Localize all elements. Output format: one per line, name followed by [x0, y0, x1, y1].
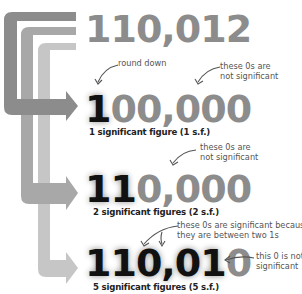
note-1sf-zeros-not-significant: these 0s are not significant: [220, 61, 278, 82]
note-5sf-zeros-significant: these 0s are significant because they ar…: [177, 220, 302, 241]
number-1sf: 100,000: [85, 90, 251, 128]
note-last-zero-not-significant: this 0 is not significant: [256, 251, 302, 272]
source-number: 110,012: [85, 10, 251, 48]
pointer-arrow-1sf-zeros-icon: [194, 64, 222, 86]
note-line: not significant: [220, 71, 278, 81]
note-line: significant: [256, 261, 302, 271]
note-line: these 0s are: [200, 142, 258, 152]
caption-2sf: 2 significant figures (2 s.f.): [93, 207, 219, 217]
number-2sf: 110,000: [85, 170, 251, 208]
arrow-to-5sf-icon: [38, 43, 78, 284]
significant-digits: 11: [85, 170, 136, 208]
note-line: these 0s are: [220, 61, 278, 71]
caption-1sf: 1 significant figure (1 s.f.): [89, 127, 210, 137]
significant-digits: 1: [85, 90, 110, 128]
note-line: not significant: [200, 152, 258, 162]
branching-arrows: [0, 0, 90, 294]
pointer-arrow-last-zero-icon: [222, 252, 256, 266]
note-line: this 0 is not: [256, 251, 302, 261]
pointer-arrow-2sf-zeros-icon: [168, 146, 198, 168]
caption-5sf: 5 significant figures (5 s.f.): [93, 282, 219, 292]
non-significant-digits: 0,000: [136, 170, 251, 208]
note-round-down: round down: [118, 58, 166, 68]
note-2sf-zeros-not-significant: these 0s are not significant: [200, 142, 258, 163]
note-line: they are between two 1s: [177, 230, 302, 240]
pointer-arrow-round-down-icon: [94, 62, 120, 88]
note-line: these 0s are significant because: [177, 220, 302, 230]
significant-digits: 110,01: [85, 244, 226, 282]
non-significant-digits: 00,000: [110, 90, 251, 128]
